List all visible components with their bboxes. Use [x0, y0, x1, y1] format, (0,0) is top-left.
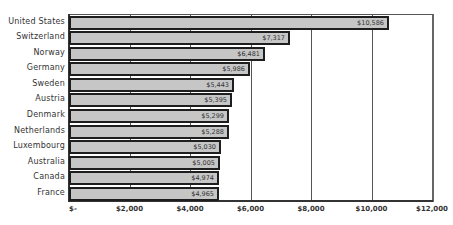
category-label: Germany — [27, 63, 65, 72]
bar-value-label: $4,965 — [191, 188, 214, 200]
bar-value-label: $4,974 — [191, 172, 214, 184]
x-tick-label: $6,000 — [237, 205, 264, 213]
bar: $5,395 — [69, 93, 232, 107]
bar-value-label: $5,443 — [206, 79, 229, 91]
bar: $4,965 — [69, 187, 219, 201]
bar: $5,299 — [69, 109, 229, 123]
bar: $6,481 — [69, 47, 265, 61]
gridline — [372, 14, 373, 201]
category-label: Austria — [35, 94, 65, 103]
bar-value-label: $5,030 — [193, 141, 216, 153]
category-label: Netherlands — [14, 126, 65, 135]
category-label: Switzerland — [16, 32, 65, 41]
bar-chart: United StatesSwitzerlandNorwayGermanySwe… — [0, 0, 453, 225]
category-label: United States — [8, 17, 65, 26]
bar: $5,288 — [69, 125, 229, 139]
category-label: Sweden — [32, 79, 65, 88]
bar-value-label: $5,986 — [222, 63, 245, 75]
category-label: Canada — [33, 172, 65, 181]
x-tick-label: $8,000 — [297, 205, 324, 213]
bar: $5,030 — [69, 140, 221, 154]
bar: $5,005 — [69, 156, 220, 170]
x-tick-label: $4,000 — [176, 205, 203, 213]
bar-value-label: $5,395 — [204, 94, 227, 106]
bar: $4,974 — [69, 171, 219, 185]
gridline — [311, 14, 312, 201]
bar-value-label: $5,005 — [192, 157, 215, 169]
bar: $7,317 — [69, 31, 290, 45]
bar-value-label: $7,317 — [262, 32, 285, 44]
bar-value-label: $5,288 — [201, 126, 224, 138]
category-label: Australia — [28, 157, 65, 166]
x-tick-label: $12,000 — [416, 205, 448, 213]
x-tick-label: $10,000 — [356, 205, 388, 213]
category-label: France — [37, 188, 65, 197]
bar: $5,443 — [69, 78, 234, 92]
bar: $10,586 — [69, 16, 389, 30]
bar-value-label: $10,586 — [357, 17, 384, 29]
x-tick-label: $2,000 — [116, 205, 143, 213]
bar-value-label: $5,299 — [201, 110, 224, 122]
category-label: Luxembourg — [13, 141, 65, 150]
x-tick-label: $- — [69, 205, 77, 213]
category-label: Denmark — [27, 110, 65, 119]
category-label: Norway — [33, 48, 65, 57]
bar-value-label: $6,481 — [237, 48, 260, 60]
bar: $5,986 — [69, 62, 250, 76]
